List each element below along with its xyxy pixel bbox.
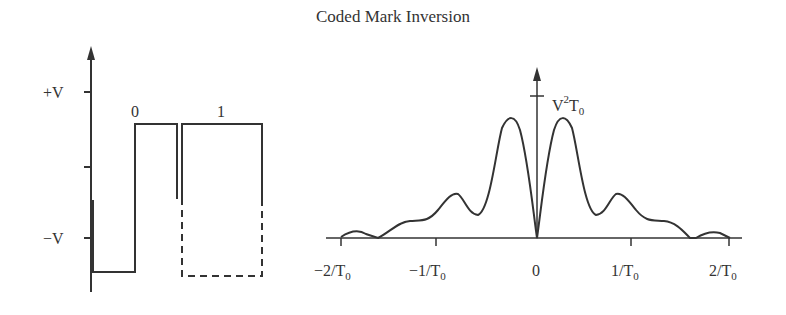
x-tick-label-plus-1: 1/T0 <box>611 262 639 282</box>
waveform-dashed-1 <box>182 199 262 276</box>
x-tick-label-minus-1: −1/T0 <box>409 262 446 282</box>
spectrum-plot <box>326 67 742 246</box>
x-tick-label-plus-2: 2/T0 <box>709 262 737 282</box>
bit-label-1: 1 <box>217 103 225 120</box>
peak-label: V2T0 <box>552 93 585 117</box>
waveform-solid-1 <box>182 124 262 199</box>
right-y-axis-arrow-icon <box>533 67 541 81</box>
label-plus-v: +V <box>43 84 64 101</box>
waveform-plot <box>84 46 262 292</box>
bit-label-0: 0 <box>131 103 139 120</box>
spectrum-curve <box>341 118 730 238</box>
waveform-solid-0 <box>93 124 177 272</box>
x-tick-label-zero: 0 <box>532 262 540 279</box>
x-tick-label-minus-2: −2/T0 <box>314 262 351 282</box>
left-y-axis-arrow-icon <box>87 46 95 60</box>
label-minus-v: −V <box>43 230 64 247</box>
cmi-figure: +V −V 0 1 V2T0 −2/T0 −1/T0 0 1/T0 2/T0 <box>0 0 786 315</box>
